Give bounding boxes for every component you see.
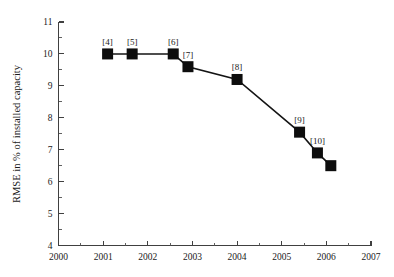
x-tick-label: 2000 [49, 252, 68, 262]
x-tick-label: 2007 [362, 252, 381, 262]
data-marker [294, 127, 305, 138]
y-tick-label: 4 [48, 241, 53, 251]
data-marker [168, 48, 179, 59]
y-tick-label: 6 [48, 177, 53, 187]
data-point-label: [8] [232, 62, 243, 72]
y-tick-label: 5 [48, 209, 53, 219]
y-tick-label: 7 [48, 145, 53, 155]
data-marker [127, 48, 138, 59]
data-point-label: [7] [183, 50, 194, 60]
data-marker [102, 48, 113, 59]
x-tick-label: 2006 [317, 252, 336, 262]
data-marker [325, 160, 336, 171]
series-line-group [108, 54, 331, 166]
data-marker [312, 147, 323, 158]
series-line [108, 54, 331, 166]
x-tick-label: 2003 [183, 252, 202, 262]
x-tick-label: 2002 [138, 252, 157, 262]
x-axis-tick-labels: 20002001200220032004200520062007 [49, 252, 381, 262]
y-tick-label: 11 [43, 17, 52, 27]
y-tick-label: 10 [43, 49, 53, 59]
data-point-label: [9] [294, 115, 305, 125]
data-marker [182, 61, 193, 72]
x-tick-label: 2004 [228, 252, 247, 262]
data-point-label: [4] [102, 37, 113, 47]
y-tick-label: 8 [48, 113, 53, 123]
data-marker [232, 74, 243, 85]
data-point-label: [5] [127, 37, 138, 47]
x-axis-ticks [59, 241, 372, 246]
y-axis-tick-labels: 4567891011 [43, 17, 53, 251]
y-axis-ticks [59, 22, 64, 246]
y-tick-label: 9 [48, 81, 53, 91]
y-axis-title: RMSE in % of installed capacity [11, 64, 22, 203]
x-tick-label: 2005 [272, 252, 291, 262]
data-point-label: [6] [168, 37, 179, 47]
data-point-label: [10] [310, 136, 325, 146]
x-tick-label: 2001 [94, 252, 113, 262]
chart-figure: 4567891011 20002001200220032004200520062… [0, 0, 394, 277]
chart-canvas: 4567891011 20002001200220032004200520062… [0, 0, 394, 277]
data-markers-group [102, 48, 336, 171]
